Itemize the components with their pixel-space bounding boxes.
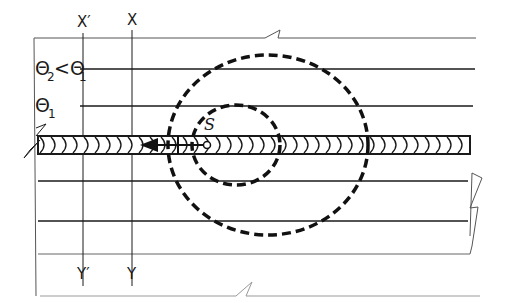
label-y: Y [126, 265, 137, 283]
svg-text:1: 1 [79, 70, 87, 84]
plate-outline [34, 30, 482, 296]
label-source-s: S [204, 115, 215, 134]
label-theta2-lt-theta1: Θ 2 <Θ 1 [35, 57, 87, 84]
horizontal-lines [38, 69, 475, 254]
label-x-prime: X′ [77, 13, 91, 31]
label-theta1: Θ 1 [35, 94, 56, 121]
weld-bead [24, 124, 470, 158]
svg-text:1: 1 [48, 107, 56, 121]
label-x: X [127, 11, 137, 29]
source-point-icon [204, 142, 211, 149]
label-y-prime: Y′ [76, 265, 90, 283]
weld-isotherm-diagram: X′ X Y′ Y Θ 2 <Θ 1 Θ 1 S [0, 0, 506, 303]
